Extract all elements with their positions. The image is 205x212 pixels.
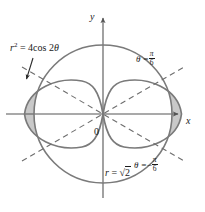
polar-graph-figure: y x 0 r2 = 4cos 2θ θ =π6 θ =−π6 r = √2 <box>0 0 205 212</box>
theta-plus-pi-over-6-label: θ =π6 <box>136 50 155 67</box>
lemniscate-equals: = <box>17 42 28 53</box>
theta-plus-lhs: θ = <box>136 54 149 64</box>
theta-minus-denominator: 6 <box>152 165 158 173</box>
theta-plus-denominator: 6 <box>149 59 155 67</box>
origin-label: 0 <box>94 127 99 137</box>
lemniscate-theta: θ <box>54 42 59 53</box>
theta-minus-pi-over-6-label: θ =−π6 <box>134 156 158 173</box>
y-axis-label: y <box>90 12 94 22</box>
theta-minus-lhs: θ = <box>134 160 147 170</box>
theta-minus-fraction: π6 <box>152 156 158 173</box>
circle-equation-label: r = √2 <box>105 168 131 178</box>
polar-plot-canvas <box>0 0 205 212</box>
circle-radicand: 2 <box>125 166 131 178</box>
theta-plus-fraction: π6 <box>149 50 155 67</box>
circle-radical: √2 <box>120 168 132 178</box>
x-axis-label: x <box>186 116 190 126</box>
lemniscate-equation-label: r2 = 4cos 2θ <box>10 42 59 53</box>
lemniscate-rhs: 4cos 2 <box>28 42 54 53</box>
leader-arrow-to-left-region <box>27 58 34 79</box>
circle-equals: = <box>109 167 120 178</box>
